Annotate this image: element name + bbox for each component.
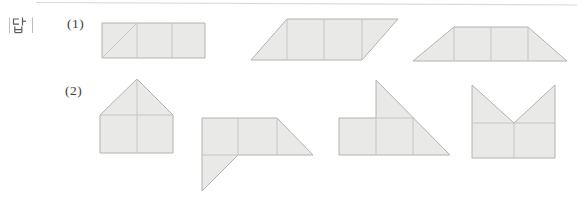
figure-crown-shape bbox=[472, 85, 555, 158]
item-label-2: (2) bbox=[65, 83, 82, 99]
figure-parallelogram bbox=[251, 19, 398, 60]
figures-canvas bbox=[0, 0, 577, 201]
answer-page: |답| (1) (2) bbox=[0, 0, 577, 201]
top-rule bbox=[36, 3, 577, 6]
rectangle-with-diagonal-outline bbox=[102, 23, 205, 58]
figure-rectangle-with-diagonal bbox=[102, 23, 205, 58]
item-label-1: (1) bbox=[67, 16, 84, 32]
figure-rectangle-with-large-triangle-shape bbox=[339, 80, 450, 155]
answer-label: |답| bbox=[8, 15, 34, 35]
trapezoid-outline bbox=[413, 27, 567, 61]
figure-house-shape bbox=[100, 79, 173, 153]
figure-flag-with-tail-shape bbox=[202, 118, 313, 191]
figure-trapezoid bbox=[413, 27, 567, 61]
hangul-dap-glyph bbox=[8, 15, 34, 35]
